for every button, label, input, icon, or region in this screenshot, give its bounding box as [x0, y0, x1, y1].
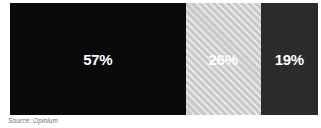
bar-segment-2-label: 26%: [209, 52, 238, 67]
bar-segment-2[interactable]: 26%: [186, 3, 261, 115]
bar-segment-3-label: 19%: [275, 52, 304, 67]
bar-segment-1[interactable]: 57%: [10, 3, 186, 115]
bar-segment-1-label: 57%: [83, 52, 112, 67]
stacked-bar-chart: 57% 26% 19% Source: Opinium: [0, 0, 321, 128]
bar-segment-3[interactable]: 19%: [261, 3, 318, 115]
stacked-bar-track: 57% 26% 19%: [10, 3, 318, 115]
source-note: Source: Opinium: [8, 117, 58, 124]
